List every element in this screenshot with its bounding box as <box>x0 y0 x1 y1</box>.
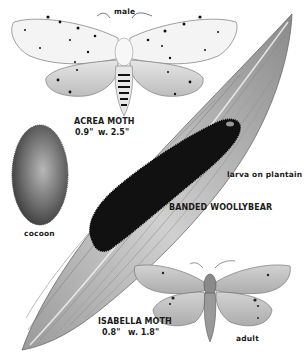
acrea-wingspan: w. 2.5" <box>98 129 129 137</box>
woollybear-label: BANDED WOOLLYBEAR <box>169 204 272 212</box>
caterpillar-head-highlight <box>226 122 234 127</box>
isabella-wingspan: w. 1.8" <box>128 329 159 337</box>
isabella-length: 0.8" <box>102 329 120 337</box>
cocoon-label: cocoon <box>24 230 55 238</box>
acrea-male-label: male <box>114 8 135 16</box>
acrea-moth <box>12 13 237 116</box>
acrea-length: 0.9" <box>75 129 93 137</box>
isabella-moth-name: ISABELLA MOTH <box>98 318 172 326</box>
acrea-moth-name: ACREA MOTH <box>74 118 135 126</box>
larva-label: larva on plantain <box>227 171 302 179</box>
isabella-adult-label: adult <box>236 335 259 343</box>
cocoon <box>12 125 68 225</box>
